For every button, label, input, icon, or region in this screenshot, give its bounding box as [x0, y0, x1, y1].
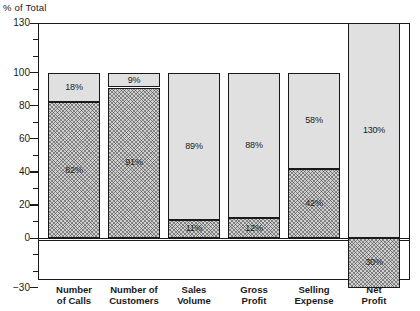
bar-label-unprofitable: 82%: [47, 165, 101, 175]
y-axis-major-tick: [30, 138, 38, 139]
bar-label-unprofitable: 11%: [167, 223, 221, 233]
bar-label-profitable: 88%: [227, 140, 281, 150]
bar-label-profitable: 89%: [167, 141, 221, 151]
bar-label-profitable: 130%: [347, 125, 401, 135]
y-axis-major-tick: [30, 23, 38, 24]
y-axis-minor-tick: [33, 155, 38, 156]
y-axis-major-tick: [30, 204, 38, 205]
y-axis-minor-tick: [33, 122, 38, 123]
y-axis-major-tick: [30, 105, 38, 106]
y-axis-minor-tick: [33, 89, 38, 90]
x-axis-category-label-line: Profit: [338, 296, 410, 307]
y-axis-tick-label: 130: [2, 17, 30, 28]
y-axis-tick-label: 80: [2, 100, 30, 111]
y-axis-tick-label: 60: [2, 133, 30, 144]
y-axis-minor-tick: [33, 188, 38, 189]
y-axis-tick-label: 0: [2, 232, 30, 243]
bar-label-unprofitable: 42%: [287, 198, 341, 208]
y-axis-minor-tick: [33, 56, 38, 57]
y-axis-tick-label: 40: [2, 166, 30, 177]
bar-label-unprofitable: 12%: [227, 223, 281, 233]
bar-label-profitable: 18%: [47, 82, 101, 92]
y-axis-tick-label: −30: [2, 282, 30, 293]
y-axis-tick-label: 100: [2, 67, 30, 78]
bar-label-unprofitable: 30%: [347, 257, 401, 267]
bar-label-profitable: 9%: [107, 75, 161, 85]
stacked-bar-chart: % of Total −30020406080100130 18%82%9%91…: [0, 0, 420, 311]
bar-label-unprofitable: 91%: [107, 157, 161, 167]
x-axis-category-label: NetProfit: [338, 285, 410, 306]
y-axis-minor-tick: [33, 221, 38, 222]
y-axis-major-tick: [30, 238, 38, 239]
bar-label-profitable: 58%: [287, 115, 341, 125]
y-axis-major-tick: [30, 287, 38, 288]
y-axis-tick-label: 20: [2, 199, 30, 210]
y-axis-major-tick: [30, 171, 38, 172]
y-axis-major-tick: [30, 72, 38, 73]
y-axis-minor-tick: [33, 39, 38, 40]
y-axis-title: % of Total: [3, 2, 47, 13]
